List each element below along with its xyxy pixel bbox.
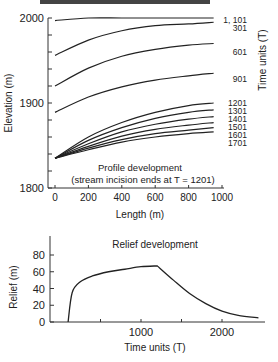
profile-line <box>55 18 214 21</box>
series-labels: 1, 101301601901120113011401150116011701 <box>223 15 247 148</box>
cut-off-heading <box>40 0 210 4</box>
series-label: 301 <box>233 23 247 33</box>
x-tick-label: 200 <box>80 192 97 203</box>
x-tick-label: 0 <box>52 192 58 203</box>
x-tick-label: 2000 <box>210 326 234 338</box>
figure: 180019002000 02004006008001000 1, 101301… <box>0 0 278 362</box>
x-axis-label: Time units (T) <box>124 342 185 353</box>
profile-subtitle: (stream incision ends at T = 1201) <box>71 174 215 185</box>
y-tick-label: 40 <box>33 283 45 295</box>
y-tick-label: 80 <box>33 249 45 261</box>
profile-title: Profile development <box>98 162 182 173</box>
profile-line <box>55 22 214 55</box>
relief-chart: 020406080 10002000 Relief development Ti… <box>8 236 265 353</box>
y-ticks: 020406080 <box>33 249 54 328</box>
x-tick-label: 1000 <box>211 192 234 203</box>
series-label: 601 <box>233 47 247 57</box>
x-tick-label: 800 <box>180 192 197 203</box>
series-label: 901 <box>233 74 247 84</box>
x-tick-label: 600 <box>147 192 164 203</box>
y-axis-label: Elevation (m) <box>3 74 14 133</box>
y-tick-label: 0 <box>39 316 45 328</box>
y-axis-label: Relief (m) <box>8 265 19 308</box>
relief-line <box>68 266 258 322</box>
profile-lines <box>55 18 214 158</box>
series-label: 1701 <box>228 138 247 148</box>
y-tick-label: 2000 <box>20 12 44 24</box>
x-tick-label: 1000 <box>129 326 153 338</box>
profile-line <box>55 73 214 112</box>
relief-title: Relief development <box>112 239 198 250</box>
profile-line <box>55 44 214 87</box>
y-tick-label: 60 <box>33 266 45 278</box>
legend-title: Time units (T) <box>257 29 268 90</box>
x-tick-label: 400 <box>113 192 130 203</box>
y-tick-label: 1800 <box>20 182 44 194</box>
y-tick-label: 1900 <box>20 97 44 109</box>
profile-chart: 180019002000 02004006008001000 1, 101301… <box>3 12 268 220</box>
y-ticks: 180019002000 <box>20 12 52 194</box>
y-tick-label: 20 <box>33 299 45 311</box>
x-axis-label: Length (m) <box>116 209 164 220</box>
